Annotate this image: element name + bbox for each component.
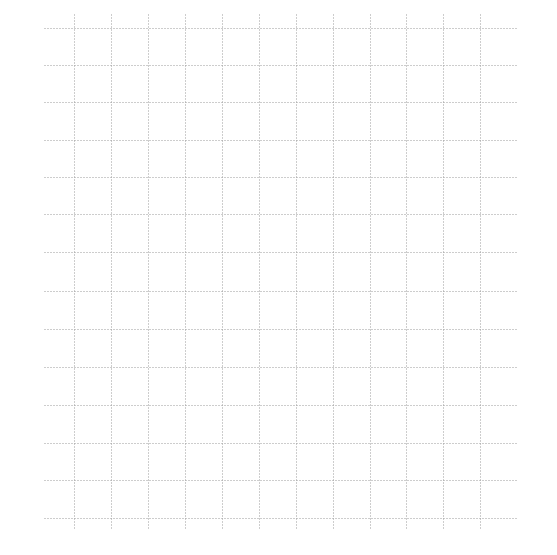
dotted-grid <box>0 0 557 555</box>
